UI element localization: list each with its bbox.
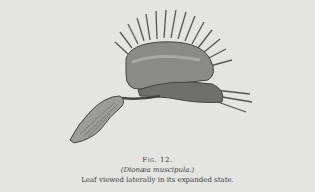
venus-flytrap-leaf-illustration <box>60 4 270 144</box>
book-plate: Fig. 12. (Dionæa muscipula.) Leaf viewed… <box>0 0 315 192</box>
figure-description: Leaf viewed laterally in its expanded st… <box>0 175 315 185</box>
species-name: (Dionæa muscipula.) <box>0 165 315 175</box>
figure-number: Fig. 12. <box>0 155 315 165</box>
figure-caption: Fig. 12. (Dionæa muscipula.) Leaf viewed… <box>0 155 315 185</box>
